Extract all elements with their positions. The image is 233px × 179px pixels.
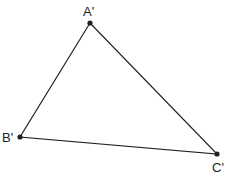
triangle-diagram: A' B' C' xyxy=(0,0,233,179)
vertex-b-point xyxy=(17,134,22,139)
vertex-c-label: C' xyxy=(212,160,224,175)
vertex-a-label: A' xyxy=(83,4,94,19)
vertex-c-point xyxy=(214,151,219,156)
vertex-a-point xyxy=(87,20,92,25)
triangle-shape xyxy=(20,23,217,154)
vertex-b-label: B' xyxy=(2,130,13,145)
